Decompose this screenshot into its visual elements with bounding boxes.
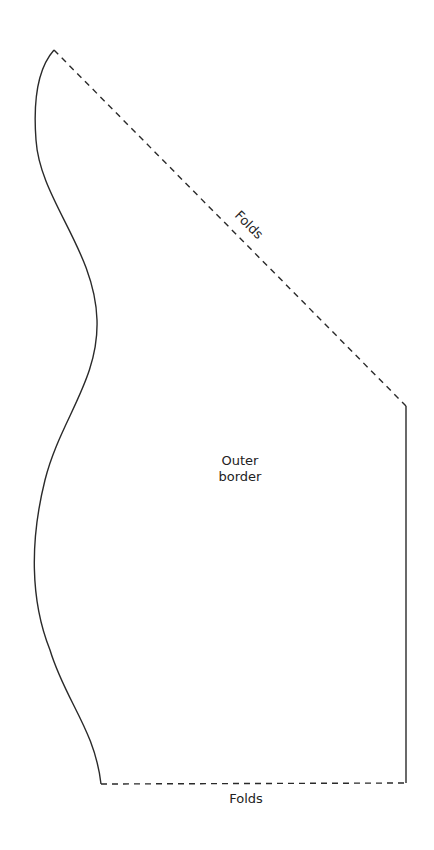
center-label-line1: Outer xyxy=(222,453,260,468)
bottom-fold-label: Folds xyxy=(229,791,263,806)
pattern-piece-diagram: Folds Outer border Folds xyxy=(0,0,434,850)
top-fold-line xyxy=(54,50,406,406)
bottom-fold-line xyxy=(101,783,406,784)
left-curved-edge xyxy=(34,50,101,784)
top-fold-label: Folds xyxy=(232,208,267,243)
center-label-line2: border xyxy=(219,469,263,484)
